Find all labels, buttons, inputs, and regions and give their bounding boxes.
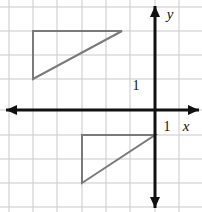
x-axis-label: x [182, 118, 190, 134]
x-axis-unit-tick-label: 1 [164, 119, 171, 134]
y-axis-unit-tick-label: 1 [133, 78, 140, 93]
graph-canvas: y x 1 1 [0, 0, 202, 212]
y-axis-label: y [165, 6, 174, 22]
coordinate-plane-figure: y x 1 1 [0, 0, 202, 212]
